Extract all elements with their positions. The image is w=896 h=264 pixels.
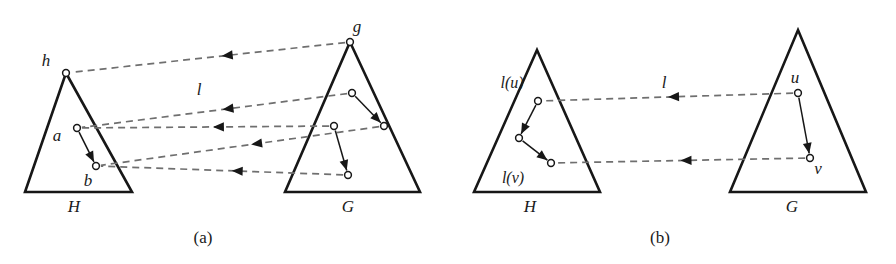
node-label-a: a <box>53 126 62 145</box>
node-lu: l(u) <box>500 74 541 104</box>
map-g2top-to-a-arrowhead <box>213 122 224 131</box>
figure-container: HGhabgl(a)HGl(u)l(v)uvl(b) <box>0 0 896 264</box>
triangle-g: G <box>730 30 866 216</box>
node-g: g <box>347 17 362 45</box>
node-v: v <box>807 155 823 178</box>
panel-caption-panel-b: (b) <box>650 228 670 247</box>
triangle-outline-g <box>285 42 420 192</box>
triangle-outline-h <box>474 50 600 192</box>
node-label-lv: l(v) <box>502 169 524 187</box>
graph-edge-arrowhead-mid-to-lv <box>536 150 547 160</box>
node-g2-top <box>331 123 338 130</box>
graph-edge-u-to-v <box>799 98 812 154</box>
map-g1top-to-a-line <box>82 94 347 128</box>
node-label-b: b <box>84 171 93 190</box>
triangle-h: H <box>25 73 132 216</box>
node-lv: l(v) <box>502 160 555 187</box>
node-label-h: h <box>42 51 51 70</box>
triangle-label-h: H <box>523 197 538 216</box>
graph-edge-arrowhead-g2-top-to-g2-bot <box>340 159 348 170</box>
node-label-lu: l(u) <box>500 74 523 92</box>
map-g1top-to-a-arrowhead <box>222 104 233 113</box>
map-g1top-to-a <box>82 94 347 128</box>
map-v-to-lv-arrowhead <box>681 156 692 165</box>
figure-canvas: HGhabgl(a)HGl(u)l(v)uvl(b) <box>0 0 896 264</box>
node-label-u: u <box>791 68 800 87</box>
graph-edge-lu-to-mid <box>521 105 536 134</box>
node-marker-a <box>74 125 81 132</box>
map-g1bot-to-b-line <box>101 127 379 166</box>
map-function-label: l <box>662 73 667 92</box>
triangle-label-g: G <box>786 197 798 216</box>
triangle-outline-g <box>730 30 866 192</box>
map-g2top-to-a <box>82 122 329 131</box>
map-g2bot-to-b-line <box>101 166 343 175</box>
map-g2bot-to-b <box>101 166 343 176</box>
node-label-g: g <box>353 17 362 36</box>
node-b: b <box>84 163 100 190</box>
node-g1-bot <box>381 123 388 130</box>
triangle-label-h: H <box>67 197 82 216</box>
node-marker-g1-bot <box>381 123 388 130</box>
node-marker-mid <box>516 135 523 142</box>
node-marker-b <box>93 163 100 170</box>
map-g-to-h-line <box>71 43 345 73</box>
node-a: a <box>53 125 81 145</box>
node-marker-g1-top <box>349 90 356 97</box>
node-g1-top <box>349 90 356 97</box>
node-label-v: v <box>814 159 822 178</box>
panels-layer: HGhabgl(a)HGl(u)l(v)uvl(b) <box>25 17 866 247</box>
panel-caption-panel-a: (a) <box>194 228 213 247</box>
triangle-label-g: G <box>342 197 354 216</box>
panel-a: HGhabgl(a) <box>25 17 420 247</box>
map-v-to-lv <box>556 156 805 165</box>
map-g-to-h-arrowhead <box>222 50 233 59</box>
map-g1bot-to-b-arrowhead <box>251 138 263 147</box>
graph-edge-a-to-b <box>79 132 94 162</box>
node-marker-v <box>807 155 814 162</box>
triangle-h: H <box>474 50 600 216</box>
node-u: u <box>791 68 802 96</box>
map-u-to-lu-arrowhead <box>668 92 679 101</box>
graph-edge-g2-top-to-g2-bot <box>335 130 348 170</box>
node-g2-bot <box>345 172 352 179</box>
map-g2bot-to-b-arrowhead <box>232 167 243 176</box>
node-marker-g2-top <box>331 123 338 130</box>
node-marker-h <box>63 70 70 77</box>
map-u-to-lu <box>543 92 793 101</box>
node-marker-g <box>347 39 354 46</box>
map-function-label: l <box>197 80 202 99</box>
node-h: h <box>42 51 70 76</box>
node-mid <box>516 135 523 142</box>
node-marker-lv <box>548 160 555 167</box>
map-g1bot-to-b <box>101 127 379 166</box>
node-marker-g2-bot <box>345 172 352 179</box>
graph-edge-arrowhead-u-to-v <box>803 142 812 153</box>
panel-b: HGl(u)l(v)uvl(b) <box>474 30 866 247</box>
node-marker-u <box>795 90 802 97</box>
map-g2top-to-a-line <box>82 126 329 128</box>
triangle-g: G <box>285 42 420 216</box>
graph-edge-mid-to-lv <box>523 141 548 160</box>
node-marker-lu <box>535 98 542 105</box>
map-g-to-h <box>71 43 345 73</box>
